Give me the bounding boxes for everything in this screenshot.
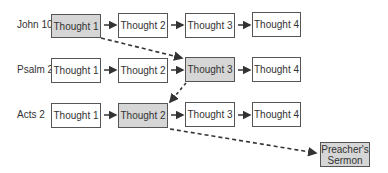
thought-box-psalm-2: Thought 2 (118, 58, 168, 83)
row-label-john-10: John 10 (17, 19, 53, 31)
thought-box-psalm-3: Thought 3 (185, 57, 235, 82)
thought-box-acts-1: Thought 1 (51, 103, 101, 128)
thought-box-john-4: Thought 4 (252, 12, 301, 37)
thought-box-acts-4: Thought 4 (252, 102, 301, 127)
sermon-line-1: Preacher's (321, 144, 369, 155)
dashed-arrow-acts-to-sermon (170, 129, 316, 153)
row-label-acts-2: Acts 2 (17, 109, 45, 121)
dashed-arrow-john-to-psalm (101, 38, 182, 58)
thought-box-john-1: Thought 1 (51, 14, 101, 38)
thought-box-acts-2: Thought 2 (118, 103, 168, 128)
thought-box-psalm-4: Thought 4 (252, 57, 301, 82)
thought-box-psalm-1: Thought 1 (51, 58, 101, 83)
thought-box-acts-3: Thought 3 (185, 102, 235, 127)
thought-box-john-2: Thought 2 (118, 13, 168, 38)
sermon-line-2: Sermon (327, 155, 362, 166)
thought-box-john-3: Thought 3 (185, 13, 235, 38)
preachers-sermon-box: Preacher's Sermon (320, 142, 370, 167)
dashed-arrow-psalm-to-acts (170, 83, 186, 102)
